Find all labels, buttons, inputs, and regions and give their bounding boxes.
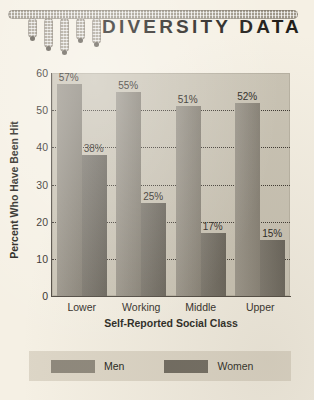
- y-tick-label: 60: [4, 67, 48, 79]
- legend-item-men: Men: [51, 360, 124, 373]
- ornament-dot-3: [62, 50, 67, 55]
- bar-value-label: 52%: [230, 91, 264, 102]
- chart-header: DIVERSITY DATA: [0, 0, 314, 58]
- ornament-bar-5: [92, 18, 101, 44]
- ornament-dot-1: [30, 36, 35, 41]
- bar-value-label: 57%: [52, 72, 86, 83]
- ornament-bar-4: [76, 18, 85, 40]
- y-axis-line: [51, 73, 52, 297]
- bar-men-middle: 51%: [176, 106, 201, 296]
- bar-value-label: 55%: [111, 80, 145, 91]
- x-axis-line: [51, 296, 291, 297]
- ornament-dot-4: [78, 38, 83, 43]
- legend-swatch-men: [51, 360, 95, 373]
- ornament-dot-5: [94, 42, 99, 47]
- bar-value-label: 17%: [196, 221, 230, 232]
- bar-value-label: 38%: [77, 143, 111, 154]
- y-axis-label: Percent Who Have Been Hit: [8, 100, 20, 280]
- bar-value-label: 25%: [136, 191, 170, 202]
- bar-women-lower: 38%: [82, 155, 107, 296]
- bar-men-upper: 52%: [235, 103, 260, 296]
- plot-area: 57%38%55%25%51%17%52%15%: [52, 73, 290, 296]
- ornament-bar-2: [44, 18, 53, 48]
- bar-group-working: 55%25%: [116, 73, 166, 296]
- bar-value-label: 15%: [255, 228, 289, 239]
- x-axis-label: Self-Reported Social Class: [52, 317, 290, 329]
- bar-women-working: 25%: [141, 203, 166, 296]
- legend-label: Women: [217, 360, 253, 372]
- legend-label: Men: [104, 360, 124, 372]
- bar-value-label: 51%: [171, 94, 205, 105]
- ornament-dot-2: [46, 46, 51, 51]
- legend-item-women: Women: [164, 360, 253, 373]
- ornament-bar-1: [28, 18, 37, 38]
- bar-men-lower: 57%: [57, 84, 82, 296]
- bar-group-lower: 57%38%: [57, 73, 107, 296]
- chart-figure: 57%38%55%25%51%17%52%15% 0102030405060 P…: [0, 58, 314, 348]
- bar-group-middle: 51%17%: [176, 73, 226, 296]
- bar-group-upper: 52%15%: [235, 73, 285, 296]
- ornament-bar-3: [60, 18, 69, 52]
- y-tick-label: 0: [4, 290, 48, 302]
- bar-women-upper: 15%: [260, 240, 285, 296]
- x-tick-label-upper: Upper: [225, 301, 295, 313]
- page-title: DIVERSITY DATA: [102, 16, 302, 38]
- legend-swatch-women: [164, 360, 208, 373]
- bar-women-middle: 17%: [201, 233, 226, 296]
- chart-legend: MenWomen: [29, 351, 291, 381]
